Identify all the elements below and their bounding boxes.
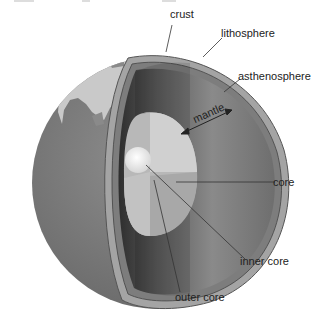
label-crust: crust: [170, 8, 194, 20]
label-core: core: [273, 176, 294, 188]
label-asthenosphere: asthenosphere: [238, 70, 311, 82]
earth-diagram: crust lithosphere asthenosphere mantle c…: [0, 0, 320, 310]
label-lithosphere: lithosphere: [221, 27, 275, 39]
leader-crust: [166, 25, 172, 52]
leader-lithosphere: [203, 38, 222, 57]
inner-core: [125, 147, 151, 173]
label-outer-core: outer core: [175, 291, 225, 303]
label-inner-core: inner core: [240, 255, 289, 267]
